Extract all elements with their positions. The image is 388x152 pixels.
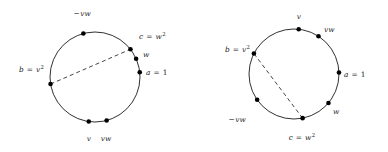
point-minus-vw-label: −vw <box>228 116 246 123</box>
point-v-dot <box>86 119 91 124</box>
point-minus-vw-dot <box>255 98 260 103</box>
point-c-dot <box>300 116 305 121</box>
point-v-label: v <box>297 13 301 20</box>
point-vw-dot <box>104 118 109 123</box>
point-b-label: b = v2 <box>19 66 44 73</box>
point-c-dot <box>128 47 133 52</box>
point-vw-label: vw <box>101 135 112 142</box>
left-circle-group <box>48 31 142 124</box>
circle-outline <box>249 29 339 119</box>
point-minus-vw-dot <box>81 31 86 36</box>
point-c-label: c = w2 <box>289 134 316 141</box>
point-w-label: w <box>333 108 339 115</box>
point-b-dot <box>48 82 53 87</box>
figure-root: −vwc = w2wa = 1vwvb = v2 vvwa = 1wc = w2… <box>0 0 388 152</box>
point-b-label: b = v2 <box>225 46 250 53</box>
point-vw-dot <box>316 34 321 39</box>
point-vw-label: vw <box>324 26 335 33</box>
dashed-chord-left <box>51 49 131 84</box>
point-w-dot <box>134 56 139 61</box>
point-w-dot <box>326 101 331 106</box>
point-c-label: c = w2 <box>139 33 166 40</box>
point-b-dot <box>252 51 257 56</box>
figure-svg <box>0 0 388 152</box>
point-w-label: w <box>143 51 149 58</box>
point-minus-vw-label: −vw <box>73 10 91 17</box>
circle-outline <box>50 32 140 122</box>
point-a-dot <box>137 70 142 75</box>
point-v-dot <box>296 27 301 32</box>
dashed-chord-right <box>254 54 303 119</box>
right-circle-group <box>249 27 341 121</box>
point-a-dot <box>337 70 342 75</box>
point-a-label: a = 1 <box>344 71 366 78</box>
point-a-label: a = 1 <box>146 69 168 76</box>
point-v-label: v <box>87 135 91 142</box>
